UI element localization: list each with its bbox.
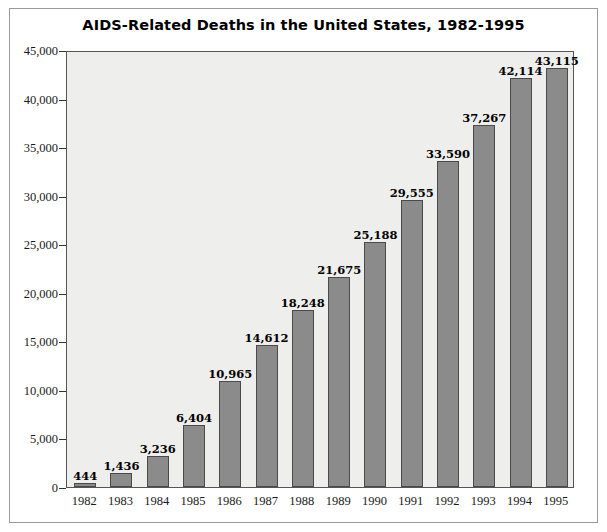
bar-value-label: 33,590 <box>426 147 470 161</box>
x-axis-tick-label: 1987 <box>253 494 278 509</box>
bar-value-label: 10,965 <box>208 367 252 381</box>
x-axis-tick-label: 1986 <box>217 494 242 509</box>
y-axis-tick-marks <box>0 51 66 488</box>
bar-value-label: 37,267 <box>462 111 506 125</box>
bar <box>510 78 532 487</box>
y-axis-tick-mark <box>59 197 66 198</box>
bar <box>473 125 495 487</box>
bar <box>328 277 350 487</box>
bar-value-label: 444 <box>73 469 97 483</box>
bar-value-label: 25,188 <box>353 228 397 242</box>
x-axis-tick-label: 1988 <box>289 494 314 509</box>
bar <box>292 310 314 487</box>
y-axis-tick-mark <box>59 245 66 246</box>
bar <box>147 456 169 487</box>
bar-value-label: 21,675 <box>317 263 361 277</box>
x-axis-tick-label: 1989 <box>326 494 351 509</box>
y-axis-tick-mark <box>59 51 66 52</box>
x-axis-tick-label: 1993 <box>471 494 496 509</box>
bar <box>183 425 205 487</box>
y-axis-tick-mark <box>59 148 66 149</box>
y-axis-tick-mark <box>59 342 66 343</box>
x-axis-tick-label: 1991 <box>398 494 423 509</box>
bar <box>110 473 132 487</box>
y-axis-tick-mark <box>59 294 66 295</box>
bar-value-label: 18,248 <box>281 296 325 310</box>
x-axis-tick-label: 1983 <box>108 494 133 509</box>
x-axis-tick-label: 1985 <box>181 494 206 509</box>
x-axis-tick-label: 1990 <box>362 494 387 509</box>
x-axis-tick-label: 1984 <box>144 494 169 509</box>
x-axis-tick-label: 1982 <box>72 494 97 509</box>
bar-value-label: 6,404 <box>176 411 212 425</box>
bar-value-label: 3,236 <box>140 442 176 456</box>
chart-title: AIDS-Related Deaths in the United States… <box>0 17 607 33</box>
plot-area: 4441,4363,2366,40410,96514,61218,24821,6… <box>66 51 574 488</box>
bar <box>401 200 423 487</box>
chart-figure: AIDS-Related Deaths in the United States… <box>0 0 607 532</box>
bar <box>256 345 278 487</box>
bar-value-label: 43,115 <box>535 54 579 68</box>
x-axis-tick-labels: 1982198319841985198619871988198919901991… <box>66 494 574 514</box>
y-axis-tick-mark <box>59 391 66 392</box>
bars-container: 4441,4363,2366,40410,96514,61218,24821,6… <box>67 52 573 487</box>
bar <box>219 381 241 487</box>
x-axis-tick-label: 1995 <box>543 494 568 509</box>
x-axis-tick-label: 1994 <box>507 494 532 509</box>
bar <box>74 483 96 487</box>
bar-value-label: 1,436 <box>103 459 139 473</box>
y-axis-tick-mark <box>59 488 66 489</box>
bar <box>437 161 459 487</box>
bar <box>546 68 568 487</box>
x-axis-tick-label: 1992 <box>435 494 460 509</box>
y-axis-tick-mark <box>59 100 66 101</box>
bar-value-label: 29,555 <box>390 186 434 200</box>
y-axis-tick-mark <box>59 439 66 440</box>
bar-value-label: 14,612 <box>245 331 289 345</box>
bar <box>364 242 386 487</box>
